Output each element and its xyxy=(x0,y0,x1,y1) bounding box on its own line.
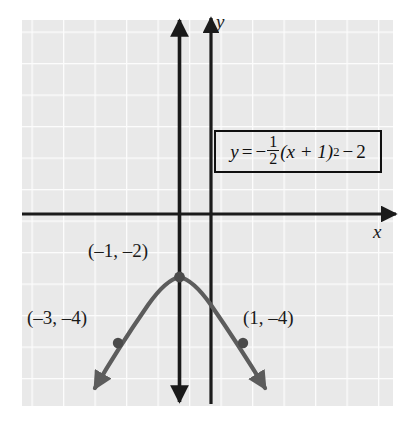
equation-fraction: 1 2 xyxy=(267,134,279,168)
equation-leading-sign: − xyxy=(256,141,267,163)
fraction-denominator: 2 xyxy=(267,150,279,167)
point-vertex-marker xyxy=(174,272,185,283)
parabola-graph-figure xyxy=(0,0,415,431)
equation-constant: 2 xyxy=(356,141,366,163)
equation-expression: y = − 1 2 (x + 1)2 − 2 xyxy=(230,135,365,169)
y-axis-label: y xyxy=(216,12,224,31)
equation-equals: = xyxy=(242,141,253,163)
vertex-point-label: (–1, –2) xyxy=(88,241,148,260)
equation-binomial: (x + 1) xyxy=(280,141,333,163)
x-axis-label: x xyxy=(373,222,381,241)
point-left-marker xyxy=(113,338,123,348)
equation-constant-sign: − xyxy=(342,141,353,163)
fraction-numerator: 1 xyxy=(267,134,279,150)
left-point-label: (–3, –4) xyxy=(27,308,87,327)
equation-callout-box: y = − 1 2 (x + 1)2 − 2 xyxy=(214,130,382,173)
point-right-marker xyxy=(238,338,248,348)
equation-lhs: y xyxy=(230,141,238,163)
right-point-label: (1, –4) xyxy=(243,308,294,327)
